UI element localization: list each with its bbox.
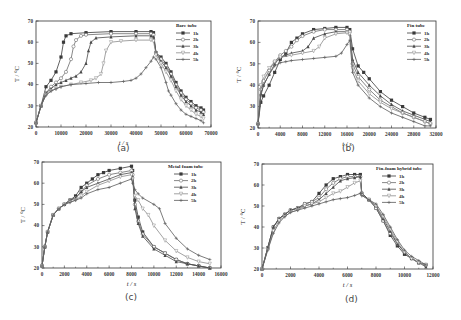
legend-entry: 4h xyxy=(191,192,197,197)
x-axis: 040008000120001600020000240002800032000 xyxy=(257,126,443,137)
y-tick-label: 20 xyxy=(34,265,40,271)
y-axis-label: T / °C xyxy=(19,207,26,223)
x-tick-label: 16000 xyxy=(215,271,228,277)
y-tick-label: 70 xyxy=(254,161,260,167)
y-axis-label: T / °C xyxy=(239,209,246,225)
x-axis: 020004000600080001000012000 xyxy=(261,267,440,278)
x-tick-label: 14000 xyxy=(192,271,205,277)
x-tick-label: 2000 xyxy=(285,272,296,278)
x-tick-label: 8000 xyxy=(126,271,137,277)
chart-d: 020004000600080001000012000t / s20304050… xyxy=(239,161,440,288)
y-tick-label: 50 xyxy=(34,201,40,207)
x-axis: 010000200003000040000500006000070000 xyxy=(35,125,218,136)
y-tick-label: 70 xyxy=(28,18,34,24)
x-tick-label: 10000 xyxy=(147,271,160,277)
series-4h xyxy=(256,31,432,125)
x-tick-label: 0 xyxy=(41,271,44,277)
legend-entry: 3h xyxy=(399,187,405,192)
y-axis-label: T / °C xyxy=(13,66,20,82)
series-5h xyxy=(40,177,211,267)
y-tick-label: 50 xyxy=(28,60,34,66)
legend-entry: 2h xyxy=(399,180,405,185)
x-axis-label: t / s xyxy=(343,281,353,288)
legend-entry: 5h xyxy=(424,57,430,62)
legend-entry: 1h xyxy=(399,174,405,179)
legend-entry: 5h xyxy=(399,200,405,205)
legend-title: Bare tube xyxy=(176,23,198,28)
chart-a: 010000200003000040000500006000070000t / … xyxy=(13,18,218,146)
y-axis: 203040506070 xyxy=(254,161,265,272)
legend-entry: 4h xyxy=(193,51,199,56)
y-tick-label: 50 xyxy=(250,61,256,67)
x-tick-label: 20000 xyxy=(363,131,376,137)
legend: Fin-foam hybrid tube1h2h3h4h5h xyxy=(376,166,423,205)
series-2h xyxy=(40,169,211,270)
x-tick-label: 4000 xyxy=(314,272,325,278)
y-tick-label: 50 xyxy=(254,203,260,209)
x-tick-label: 6000 xyxy=(342,272,353,278)
y-tick-label: 40 xyxy=(250,82,256,88)
x-tick-label: 10000 xyxy=(55,130,68,136)
y-axis: 203040506070 xyxy=(28,18,39,130)
legend-entry: 3h xyxy=(191,185,197,190)
legend: Fin tube1h2h3h4h5h xyxy=(407,23,430,62)
y-tick-label: 60 xyxy=(254,182,260,188)
caption-c: (c) xyxy=(125,292,137,302)
legend-entry: 5h xyxy=(191,198,197,203)
x-tick-label: 60000 xyxy=(180,130,193,136)
x-axis-label: t / s xyxy=(127,280,137,287)
x-tick-label: 6000 xyxy=(104,271,115,277)
y-tick-label: 30 xyxy=(254,245,260,251)
legend-entry: 1h xyxy=(193,31,199,36)
legend-entry: 2h xyxy=(424,37,430,42)
legend: Metal foam tube1h2h3h4h5h xyxy=(168,164,204,203)
x-tick-label: 12000 xyxy=(170,271,183,277)
series-3h xyxy=(40,171,211,270)
y-tick-label: 30 xyxy=(28,103,34,109)
x-tick-label: 12000 xyxy=(318,131,331,137)
y-tick-label: 20 xyxy=(254,266,260,272)
x-tick-label: 0 xyxy=(35,130,38,136)
legend-title: Metal foam tube xyxy=(168,164,204,169)
x-tick-label: 4000 xyxy=(275,131,286,137)
chart-b: 040008000120001600020000240002800032000t… xyxy=(235,18,443,147)
x-tick-label: 8000 xyxy=(297,131,308,137)
legend-entry: 4h xyxy=(399,194,405,199)
x-tick-label: 12000 xyxy=(427,272,440,278)
figure: 010000200003000040000500006000070000t / … xyxy=(0,0,461,320)
y-axis-label: T / °C xyxy=(235,67,242,83)
x-tick-label: 28000 xyxy=(407,131,420,137)
legend-title: Fin-foam hybrid tube xyxy=(376,166,423,171)
y-tick-label: 40 xyxy=(28,81,34,87)
legend-entry: 2h xyxy=(191,178,197,183)
x-tick-label: 20000 xyxy=(80,130,93,136)
y-tick-label: 20 xyxy=(250,125,256,131)
plot-frame xyxy=(258,21,436,128)
legend-entry: 3h xyxy=(193,44,199,49)
x-tick-label: 40000 xyxy=(130,130,143,136)
legend-title: Fin tube xyxy=(407,23,426,28)
x-tick-label: 0 xyxy=(257,131,260,137)
x-tick-label: 24000 xyxy=(385,131,398,137)
caption-a: (a) xyxy=(117,143,130,153)
series-3h xyxy=(256,30,432,126)
y-tick-label: 60 xyxy=(28,39,34,45)
x-tick-label: 32000 xyxy=(430,131,443,137)
legend-entry: 3h xyxy=(424,44,430,49)
legend-entry: 2h xyxy=(193,37,199,42)
y-tick-label: 70 xyxy=(250,18,256,24)
y-tick-label: 20 xyxy=(28,124,34,130)
y-tick-label: 40 xyxy=(34,222,40,228)
y-tick-label: 60 xyxy=(250,39,256,45)
x-tick-label: 10000 xyxy=(398,272,411,278)
y-tick-label: 40 xyxy=(254,224,260,230)
series-1h xyxy=(256,26,432,126)
y-tick-label: 30 xyxy=(34,244,40,250)
legend: Bare tube1h2h3h4h5h xyxy=(176,23,199,62)
caption-d: (d) xyxy=(345,294,358,304)
chart-c: 0200040006000800010000120001400016000t /… xyxy=(19,159,228,287)
y-axis: 203040506070 xyxy=(34,159,45,271)
x-tick-label: 16000 xyxy=(341,131,354,137)
x-tick-label: 8000 xyxy=(371,272,382,278)
legend-entry: 5h xyxy=(193,57,199,62)
